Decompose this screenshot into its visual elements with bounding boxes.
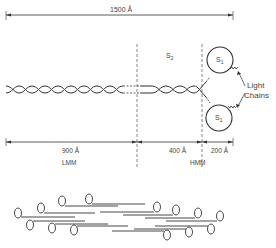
total-length-label: 1500 Å	[110, 5, 133, 13]
s1-length-label: 200 Å	[211, 146, 229, 154]
light-chain-top	[230, 67, 238, 69]
s2-coiled-coil	[140, 82, 206, 97]
segment-dimensions: 900 Å 400 Å 200 Å LMM HMM	[6, 138, 233, 166]
lmm-label: LMM	[62, 159, 76, 166]
light-chains-label-line2: Chains	[244, 91, 269, 100]
svg-text:S1: S1	[216, 56, 224, 65]
thick-filament	[15, 194, 224, 240]
myosin-diagram: 1500 Å S2 S1 S1 Light Chains	[0, 0, 276, 248]
light-chains-callout: Light Chains	[236, 71, 269, 108]
s2-length-label: 400 Å	[169, 146, 187, 154]
light-chains-label-line1: Light	[247, 81, 265, 90]
lmm-coiled-coil	[6, 86, 140, 93]
svg-text:S1: S1	[215, 114, 223, 123]
total-length-dimension: 1500 Å	[6, 5, 233, 20]
hmm-label: HMM	[190, 159, 206, 166]
light-chain-bottom	[228, 106, 236, 108]
s2-label: S2	[166, 52, 174, 61]
lmm-length-label: 900 Å	[62, 146, 80, 154]
s1-head-top: S1	[206, 47, 233, 82]
s1-head-bottom: S1	[206, 97, 232, 131]
